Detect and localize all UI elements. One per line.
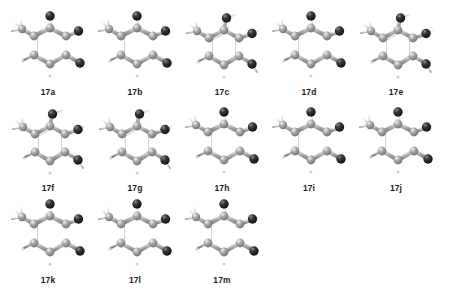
structure-17g: 17g [91, 104, 179, 193]
molecule-diagram-17l [91, 196, 179, 274]
molecule-diagram-17g [91, 104, 179, 182]
structure-label: 17h [178, 183, 266, 193]
molecule-diagram-17c [178, 8, 266, 86]
molecule-diagram-17k [4, 196, 92, 274]
structure-17m: 17m [178, 196, 266, 285]
structure-17h: 17h [178, 104, 266, 193]
molecule-diagram-17f [4, 104, 92, 182]
molecule-diagram-17j [352, 104, 440, 182]
structure-17b: 17b [91, 8, 179, 97]
structure-label: 17f [4, 183, 92, 193]
structure-17e: 17e [352, 8, 440, 97]
structure-label: 17i [265, 183, 353, 193]
structure-17l: 17l [91, 196, 179, 285]
structure-label: 17l [91, 275, 179, 285]
structure-label: 17c [178, 87, 266, 97]
structure-17f: 17f [4, 104, 92, 193]
structure-17d: 17d [265, 8, 353, 97]
molecule-diagram-17b [91, 8, 179, 86]
structure-label: 17j [352, 183, 440, 193]
structure-grid: 17a 17b 17c 17d 17e [0, 0, 449, 295]
molecule-diagram-17d [265, 8, 353, 86]
structure-label: 17a [4, 87, 92, 97]
molecule-diagram-17a [4, 8, 92, 86]
structure-label: 17m [178, 275, 266, 285]
molecule-diagram-17m [178, 196, 266, 274]
structure-17c: 17c [178, 8, 266, 97]
molecular-figure: 17a 17b 17c 17d 17e [0, 0, 449, 295]
structure-17j: 17j [352, 104, 440, 193]
molecule-diagram-17e [352, 8, 440, 86]
structure-label: 17d [265, 87, 353, 97]
structure-label: 17b [91, 87, 179, 97]
structure-label: 17k [4, 275, 92, 285]
structure-label: 17g [91, 183, 179, 193]
structure-17i: 17i [265, 104, 353, 193]
structure-17k: 17k [4, 196, 92, 285]
molecule-diagram-17h [178, 104, 266, 182]
molecule-diagram-17i [265, 104, 353, 182]
structure-17a: 17a [4, 8, 92, 97]
structure-label: 17e [352, 87, 440, 97]
